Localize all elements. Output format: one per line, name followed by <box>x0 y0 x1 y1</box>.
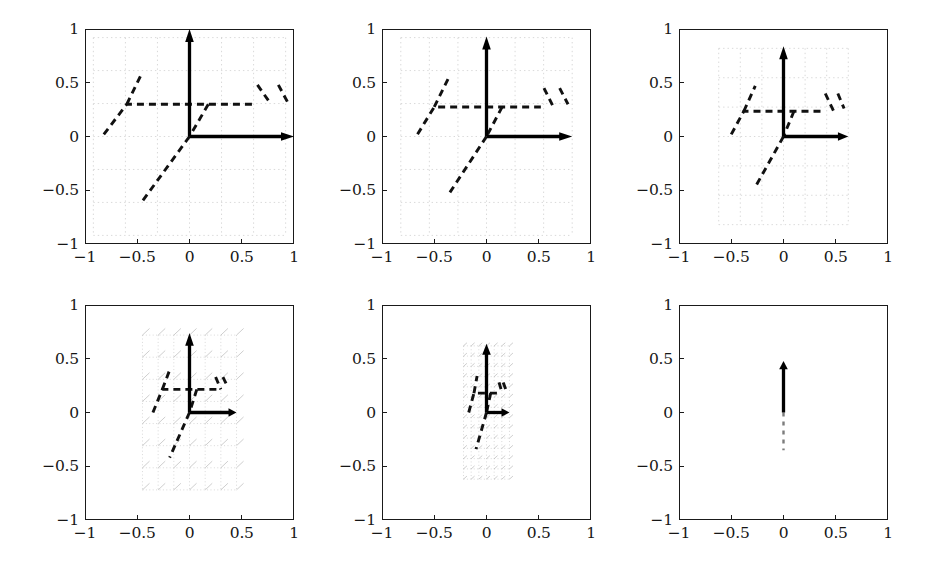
x-tickmark <box>835 239 836 244</box>
x-tickmark <box>783 239 784 244</box>
y-tick-label: 0.5 <box>352 350 382 368</box>
x-tick-label: 0.5 <box>527 248 551 266</box>
y-tickmark <box>85 412 90 413</box>
x-tick-label: 1 <box>289 248 299 266</box>
x-tickmark <box>241 239 242 244</box>
y-tick-label: −0.5 <box>42 457 85 475</box>
y-tick-label: 1 <box>663 20 679 38</box>
y-tickmark <box>85 136 90 137</box>
y-tick-label: 1 <box>366 20 382 38</box>
x-tickmark <box>434 515 435 520</box>
horizontal-unit-arrow <box>190 408 237 417</box>
x-tick-label: 0.5 <box>230 248 254 266</box>
vertical-unit-arrow <box>482 344 491 413</box>
plot-panel-1: −1−0.500.51−1−0.500.51 <box>85 29 294 244</box>
y-tick-label: 0 <box>69 404 85 422</box>
horizontal-unit-arrow <box>784 132 849 141</box>
x-tick-label: 0 <box>482 248 492 266</box>
x-tick-label: 0 <box>482 524 492 542</box>
y-tickmark <box>679 136 684 137</box>
y-tick-label: 1 <box>69 296 85 314</box>
x-tick-label: 1 <box>883 524 893 542</box>
x-tick-label: 0 <box>185 524 195 542</box>
x-tick-label: −0.5 <box>119 524 156 542</box>
y-tick-label: 1 <box>69 20 85 38</box>
y-tickmark <box>85 358 90 359</box>
y-tickmark <box>85 190 90 191</box>
x-tickmark <box>434 239 435 244</box>
x-tick-label: −0.5 <box>713 248 750 266</box>
y-tickmark <box>382 136 387 137</box>
unit-arrows <box>679 305 888 520</box>
horizontal-unit-arrow <box>487 132 573 141</box>
y-tickmark <box>679 358 684 359</box>
y-tick-label: −0.5 <box>636 181 679 199</box>
y-tick-label: −0.5 <box>636 457 679 475</box>
x-tick-label: 0 <box>779 248 789 266</box>
x-tickmark <box>189 515 190 520</box>
y-tick-label: 1 <box>366 296 382 314</box>
x-tick-label: 0.5 <box>230 524 254 542</box>
x-tickmark <box>137 239 138 244</box>
y-tickmark <box>382 466 387 467</box>
vertical-unit-arrow <box>779 46 788 136</box>
x-tick-label: −1 <box>668 248 690 266</box>
y-tick-label: 0.5 <box>55 74 85 92</box>
y-tick-label: 0 <box>663 404 679 422</box>
unit-arrows <box>382 29 591 244</box>
x-tickmark <box>241 515 242 520</box>
x-tick-label: −1 <box>371 248 393 266</box>
x-tickmark <box>137 515 138 520</box>
x-tick-label: 1 <box>586 248 596 266</box>
y-tick-label: 1 <box>663 296 679 314</box>
y-tick-label: 0.5 <box>352 74 382 92</box>
x-tick-label: −1 <box>668 524 690 542</box>
x-tick-label: 1 <box>586 524 596 542</box>
unit-arrows <box>85 29 294 244</box>
x-tick-label: 0.5 <box>527 524 551 542</box>
x-tickmark <box>486 515 487 520</box>
y-tickmark <box>382 82 387 83</box>
vertical-unit-arrow <box>779 361 788 413</box>
plot-panel-5: −1−0.500.51−1−0.500.51 <box>382 305 591 520</box>
x-tick-label: 1 <box>883 248 893 266</box>
y-tickmark <box>85 466 90 467</box>
horizontal-unit-arrow <box>190 132 295 141</box>
x-tick-label: 0.5 <box>824 524 848 542</box>
plot-area <box>679 29 888 244</box>
y-tickmark <box>679 466 684 467</box>
y-tick-label: 0 <box>69 128 85 146</box>
unit-arrows <box>85 305 294 520</box>
y-tickmark <box>382 358 387 359</box>
plot-area <box>382 305 591 520</box>
figure-canvas: −1−0.500.51−1−0.500.51−1−0.500.51−1−0.50… <box>0 0 948 580</box>
x-tickmark <box>189 239 190 244</box>
x-tick-label: −0.5 <box>416 524 453 542</box>
plot-area <box>679 305 888 520</box>
x-tickmark <box>783 515 784 520</box>
x-tickmark <box>538 515 539 520</box>
x-tick-label: 0 <box>185 248 195 266</box>
y-tick-label: 0.5 <box>55 350 85 368</box>
plot-panel-2: −1−0.500.51−1−0.500.51 <box>382 29 591 244</box>
vertical-unit-arrow <box>185 29 194 137</box>
y-tick-label: 0 <box>366 128 382 146</box>
plot-area <box>85 29 294 244</box>
x-tickmark <box>486 239 487 244</box>
x-tick-label: 0 <box>779 524 789 542</box>
plot-area <box>382 29 591 244</box>
x-tickmark <box>835 515 836 520</box>
y-tickmark <box>679 190 684 191</box>
y-tickmark <box>382 412 387 413</box>
plot-panel-3: −1−0.500.51−1−0.500.51 <box>679 29 888 244</box>
x-tick-label: 1 <box>289 524 299 542</box>
y-tick-label: 0 <box>663 128 679 146</box>
x-tick-label: −1 <box>74 524 96 542</box>
y-tick-label: −0.5 <box>339 181 382 199</box>
x-tick-label: −0.5 <box>713 524 750 542</box>
y-tickmark <box>679 412 684 413</box>
y-tickmark <box>85 82 90 83</box>
x-tick-label: −1 <box>74 248 96 266</box>
x-tick-label: −0.5 <box>119 248 156 266</box>
y-tick-label: 0.5 <box>649 74 679 92</box>
